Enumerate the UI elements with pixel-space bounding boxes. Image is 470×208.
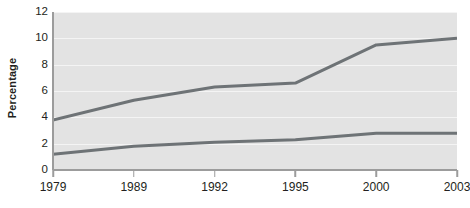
x-axis-tick-label: 1989 (120, 181, 147, 194)
x-axis-tick-mark (375, 170, 377, 177)
y-axis-title-text: Percentage (6, 58, 18, 118)
x-axis-tick-labels: 197919891992199520002003 (53, 181, 457, 201)
x-axis-tick-label: 1979 (40, 181, 67, 194)
x-axis-tick-label: 1992 (201, 181, 228, 194)
x-axis-tick-marks (53, 170, 457, 177)
y-axis-line (52, 12, 54, 170)
series-line (53, 38, 457, 120)
x-axis-tick-label: 1995 (282, 181, 309, 194)
series-line (53, 133, 457, 154)
y-axis-tick-label: 0 (42, 164, 48, 176)
series-layer (53, 12, 457, 170)
y-axis-tick-label: 10 (35, 33, 48, 45)
x-axis-tick-mark (456, 170, 458, 177)
y-axis-title: Percentage (0, 0, 24, 176)
x-axis-tick-mark (52, 170, 54, 177)
y-axis-tick-labels: 024681012 (24, 0, 52, 180)
y-axis-tick-label: 8 (42, 59, 48, 71)
plot-area (53, 12, 457, 170)
x-axis-tick-mark (214, 170, 216, 177)
y-axis-tick-label: 6 (42, 85, 48, 97)
x-axis-tick-label: 2000 (363, 181, 390, 194)
x-axis-tick-mark (133, 170, 135, 177)
y-axis-tick-label: 4 (42, 112, 48, 124)
y-axis-tick-label: 12 (35, 6, 48, 18)
x-axis-tick-label: 2003 (444, 181, 470, 194)
x-axis-tick-mark (295, 170, 297, 177)
y-axis-tick-label: 2 (42, 138, 48, 150)
